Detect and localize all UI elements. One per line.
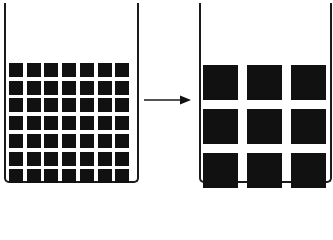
small-block [44,169,58,183]
small-block [115,152,129,166]
small-block [115,98,129,112]
small-block [80,134,94,148]
small-block [80,116,94,130]
small-block [9,81,23,95]
large-block [203,109,238,144]
large-block [247,65,282,100]
small-block [98,98,112,112]
small-block [27,98,41,112]
small-block [27,152,41,166]
small-block [9,98,23,112]
small-block [44,98,58,112]
small-block [62,116,76,130]
small-block [44,81,58,95]
large-block [203,65,238,100]
right-arrow-icon [142,93,194,107]
small-block [62,98,76,112]
large-block [203,153,238,188]
small-block [62,63,76,77]
small-block [9,152,23,166]
small-block [80,98,94,112]
large-block [247,153,282,188]
small-block [115,63,129,77]
small-block [9,116,23,130]
small-block [27,63,41,77]
small-block [27,116,41,130]
small-block [98,63,112,77]
small-block [62,152,76,166]
small-block [9,134,23,148]
small-block [115,81,129,95]
small-block [62,81,76,95]
small-block [80,63,94,77]
small-block [115,169,129,183]
small-block [9,63,23,77]
large-block [247,109,282,144]
small-block [98,152,112,166]
small-block [27,134,41,148]
small-block [80,81,94,95]
small-block [98,81,112,95]
small-block [44,134,58,148]
small-block [27,169,41,183]
large-block [291,65,326,100]
small-block [80,169,94,183]
small-block [44,63,58,77]
small-block [80,152,94,166]
large-block [291,153,326,188]
large-block [291,109,326,144]
small-block [62,134,76,148]
small-block [115,116,129,130]
small-block [9,169,23,183]
small-block [98,134,112,148]
small-block [27,81,41,95]
small-block [98,169,112,183]
small-block [44,152,58,166]
small-block [62,169,76,183]
small-block [98,116,112,130]
small-block [44,116,58,130]
small-block [115,134,129,148]
